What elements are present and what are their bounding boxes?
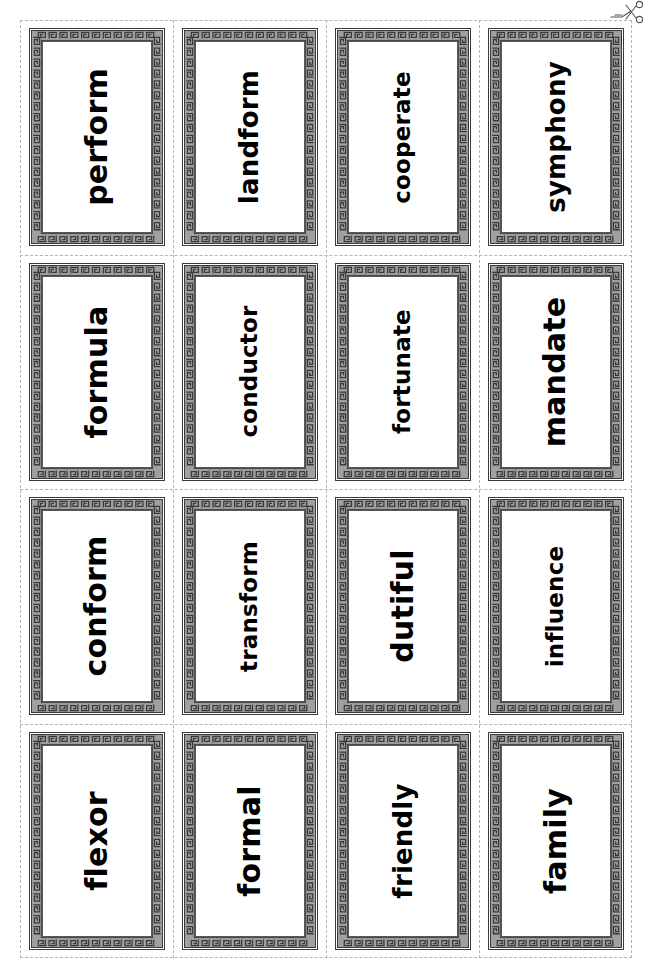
flashcard-cell: mandate xyxy=(479,255,632,490)
flashcard-cell: perform xyxy=(20,20,173,255)
flashcard-word: landform xyxy=(237,70,263,204)
flashcard[interactable]: family xyxy=(488,732,624,950)
flashcard[interactable]: friendly xyxy=(335,732,471,950)
flashcard-word: conform xyxy=(82,536,112,677)
flashcard-face: mandate xyxy=(501,276,611,468)
flashcard-cell: symphony xyxy=(479,20,632,255)
flashcard-cell: formula xyxy=(20,255,173,490)
flashcard-cell: landform xyxy=(173,20,326,255)
flashcard-face: family xyxy=(501,745,611,937)
flashcard-cell: formal xyxy=(173,724,326,959)
flashcard-word: formula xyxy=(82,305,112,438)
flashcard-word: friendly xyxy=(390,783,416,898)
flashcard-word: mandate xyxy=(541,296,571,447)
flashcard-face: flexor xyxy=(42,745,152,937)
flashcard-face: conductor xyxy=(195,276,305,468)
flashcard-face: cooperate xyxy=(348,41,458,233)
flashcard-cell: friendly xyxy=(326,724,479,959)
flashcard-face: dutiful xyxy=(348,510,458,702)
flashcard-face: formal xyxy=(195,745,305,937)
flashcard-word: fortunate xyxy=(391,309,414,434)
flashcard[interactable]: landform xyxy=(182,28,318,246)
flashcard[interactable]: fortunate xyxy=(335,263,471,481)
flashcard-face: friendly xyxy=(348,745,458,937)
flashcard[interactable]: formal xyxy=(182,732,318,950)
flashcard-word: transform xyxy=(238,541,261,672)
flashcard[interactable]: transform xyxy=(182,497,318,715)
flashcard-face: fortunate xyxy=(348,276,458,468)
flashcard[interactable]: influence xyxy=(488,497,624,715)
flashcard-word: flexor xyxy=(81,791,111,891)
flashcard-cell: conform xyxy=(20,489,173,724)
flashcard-face: influence xyxy=(501,510,611,702)
flashcard[interactable]: flexor xyxy=(29,732,165,950)
flashcard-face: landform xyxy=(195,41,305,233)
flashcard-cell: flexor xyxy=(20,724,173,959)
flashcard[interactable]: dutiful xyxy=(335,497,471,715)
flashcard-cell: cooperate xyxy=(326,20,479,255)
flashcard-word: family xyxy=(540,788,570,894)
flashcard-face: perform xyxy=(42,41,152,233)
flashcard-face: transform xyxy=(195,510,305,702)
flashcard-word: cooperate xyxy=(391,71,414,204)
flashcard-cell: dutiful xyxy=(326,489,479,724)
flashcard-word: formal xyxy=(235,785,265,896)
flashcard-cell: family xyxy=(479,724,632,959)
flashcard-page: performlandformcooperatesymphonyformulac… xyxy=(0,0,652,967)
flashcard-cell: conductor xyxy=(173,255,326,490)
flashcard-cell: fortunate xyxy=(326,255,479,490)
flashcard-face: formula xyxy=(42,276,152,468)
flashcard-word: perform xyxy=(82,68,112,206)
flashcard[interactable]: cooperate xyxy=(335,28,471,246)
flashcard[interactable]: conform xyxy=(29,497,165,715)
flashcard[interactable]: mandate xyxy=(488,263,624,481)
flashcard-face: symphony xyxy=(501,41,611,233)
flashcard[interactable]: symphony xyxy=(488,28,624,246)
flashcard-word: influence xyxy=(544,545,567,667)
flashcard[interactable]: conductor xyxy=(182,263,318,481)
flashcard-word: symphony xyxy=(543,61,569,213)
flashcard-cell: influence xyxy=(479,489,632,724)
flashcard-grid: performlandformcooperatesymphonyformulac… xyxy=(20,20,632,958)
flashcard-word: conductor xyxy=(238,306,261,438)
flashcard-word: dutiful xyxy=(388,549,418,663)
flashcard[interactable]: formula xyxy=(29,263,165,481)
flashcard-cell: transform xyxy=(173,489,326,724)
flashcard[interactable]: perform xyxy=(29,28,165,246)
flashcard-face: conform xyxy=(42,510,152,702)
